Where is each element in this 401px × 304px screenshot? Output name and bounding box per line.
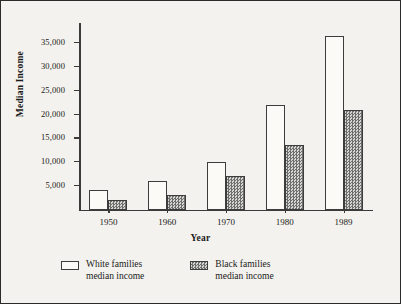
legend-label-white-line1: White families [86,259,142,269]
legend-swatch-black-icon [190,261,208,270]
bar-white-1960 [148,181,167,210]
y-tick-label: 25,000 [41,85,65,95]
bar-group [266,24,304,210]
x-tick [167,209,168,213]
y-tick [74,66,80,67]
bar-group [89,24,127,210]
x-tick [226,209,227,213]
bar-white-1950 [89,190,108,209]
x-tick-label: 1989 [335,217,353,227]
y-tick-label: 35,000 [41,37,65,47]
bar-group [325,24,363,210]
bar-black-1980 [285,145,304,209]
y-tick-label: 5,000 [45,180,65,190]
x-tick-label: 1960 [158,217,176,227]
x-tick [344,209,345,213]
x-tick [285,209,286,213]
bar-black-1950 [108,200,127,210]
legend-label-white-line2: median income [86,271,144,281]
x-tick [108,209,109,213]
plot-area: 5,00010,00015,00020,00025,00030,00035,00… [79,23,373,211]
legend-item-black: Black families median income [190,259,273,282]
y-tick-label: 10,000 [41,156,65,166]
chart-legend: White families median income Black famil… [61,259,274,282]
y-tick [74,114,80,115]
y-tick [74,42,80,43]
bar-group [207,24,245,210]
x-axis-title: Year [1,233,400,243]
legend-swatch-white-icon [61,261,79,270]
legend-label-white: White families median income [86,259,144,282]
legend-item-white: White families median income [61,259,144,282]
bar-white-1989 [325,36,344,209]
bar-black-1960 [167,195,186,209]
y-tick [74,161,80,162]
y-tick [74,137,80,138]
y-axis-line [79,23,81,211]
legend-label-black-line1: Black families [215,259,270,269]
y-tick-label: 30,000 [41,61,65,71]
chart-figure: Median Income 5,00010,00015,00020,00025,… [0,0,401,304]
bar-black-1970 [226,176,245,209]
x-tick-label: 1950 [99,217,117,227]
y-axis-title: Median Income [15,51,29,117]
x-tick-label: 1970 [217,217,235,227]
y-tick [74,90,80,91]
bar-white-1970 [207,162,226,210]
bar-white-1980 [266,105,285,210]
bar-group [148,24,186,210]
y-tick-label: 20,000 [41,109,65,119]
y-tick [74,185,80,186]
x-tick-label: 1980 [276,217,294,227]
legend-label-black: Black families median income [215,259,273,282]
y-tick-label: 15,000 [41,132,65,142]
legend-label-black-line2: median income [215,271,273,281]
bar-black-1989 [344,110,363,209]
